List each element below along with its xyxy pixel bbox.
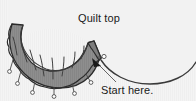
quilt-binding-diagram: Quilt top Start here. <box>0 0 196 101</box>
label-start-here: Start here. <box>101 84 153 96</box>
label-quilt-top: Quilt top <box>78 12 120 24</box>
